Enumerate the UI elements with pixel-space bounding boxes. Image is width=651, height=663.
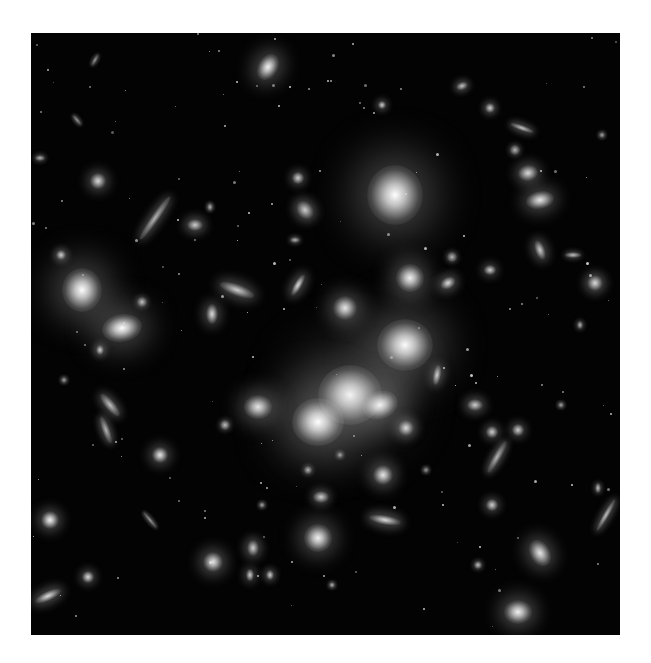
star-speck [463, 235, 465, 237]
star-speck [257, 575, 259, 577]
star-speck [197, 33, 199, 35]
star-speck [135, 239, 138, 242]
star-speck [541, 384, 543, 386]
star-speck [442, 504, 444, 506]
star-speck [323, 575, 325, 577]
galaxy [485, 103, 495, 113]
star-speck [603, 405, 604, 406]
star-speck [40, 111, 42, 113]
star-speck [492, 626, 493, 627]
star-speck [475, 382, 477, 384]
galaxy [220, 420, 230, 430]
galaxy [259, 502, 265, 508]
galaxy [524, 536, 555, 570]
galaxy [486, 499, 498, 511]
star-speck [364, 84, 367, 87]
star-speck [291, 605, 292, 606]
star-speck [418, 327, 420, 329]
star-speck [373, 112, 375, 114]
galaxy [532, 239, 548, 261]
galaxy [378, 101, 386, 109]
star-speck [319, 170, 321, 172]
galaxy [137, 194, 173, 241]
star-speck [607, 488, 610, 491]
star-speck [278, 105, 280, 107]
star-speck [224, 125, 226, 127]
galaxy [512, 424, 524, 436]
galaxy [304, 466, 312, 474]
star-speck [546, 83, 547, 84]
galaxy [558, 402, 564, 408]
galaxy [484, 265, 496, 275]
star-speck [571, 484, 573, 486]
star-speck [289, 259, 291, 261]
star-speck [212, 401, 213, 402]
galaxy [292, 172, 304, 184]
star-speck [266, 487, 268, 489]
star-speck [316, 307, 317, 308]
star-speck [177, 219, 179, 221]
galaxy [289, 273, 308, 298]
galaxy [61, 377, 67, 383]
star-speck [586, 177, 587, 178]
star-speck [33, 536, 34, 537]
star-speck [589, 274, 592, 277]
galaxy [377, 319, 433, 371]
galaxy [337, 452, 343, 458]
galaxy [510, 145, 520, 155]
galaxy [485, 439, 510, 474]
star-speck [355, 571, 357, 573]
star-speck [393, 506, 396, 509]
star-speck [115, 121, 116, 122]
star-speck [283, 308, 285, 310]
galaxy [244, 395, 272, 419]
star-speck [336, 374, 337, 375]
star-speck [273, 262, 276, 265]
star-speck [36, 44, 38, 46]
star-speck [204, 510, 206, 512]
star-speck [248, 212, 250, 214]
star-speck [218, 50, 220, 52]
star-speck [76, 331, 78, 333]
star-speck [274, 38, 276, 40]
galaxy [292, 398, 344, 446]
star-speck [332, 54, 335, 57]
galaxy [97, 415, 114, 444]
star-speck [586, 262, 589, 265]
galaxy [246, 569, 254, 581]
star-speck [194, 239, 196, 241]
galaxy [218, 278, 256, 302]
star-speck [468, 444, 471, 447]
galaxy [152, 447, 168, 463]
star-speck [361, 455, 362, 456]
galaxy [486, 426, 498, 438]
star-speck [536, 297, 538, 299]
star-speck [416, 172, 417, 173]
star-speck [53, 82, 54, 83]
star-speck [423, 608, 425, 610]
star-speck [125, 90, 126, 91]
star-speck [272, 440, 273, 441]
star-speck [247, 312, 248, 313]
galaxy [290, 237, 300, 243]
star-speck [75, 615, 77, 617]
star-speck [89, 86, 91, 88]
galaxy [33, 586, 63, 607]
star-speck [498, 589, 501, 592]
galaxy [367, 165, 423, 225]
star-speck [92, 444, 94, 446]
galaxy [72, 114, 83, 126]
galaxy [247, 540, 259, 556]
star-speck [175, 106, 176, 107]
star-speck [583, 86, 585, 88]
star-speck [84, 344, 86, 346]
galaxy [467, 399, 483, 411]
star-speck [291, 561, 293, 563]
galaxy [368, 512, 401, 527]
star-speck [209, 51, 210, 52]
star-speck [359, 102, 361, 104]
galaxy [595, 483, 601, 493]
star-speck [204, 517, 206, 519]
star-speck [271, 203, 273, 205]
galaxy [100, 311, 144, 346]
